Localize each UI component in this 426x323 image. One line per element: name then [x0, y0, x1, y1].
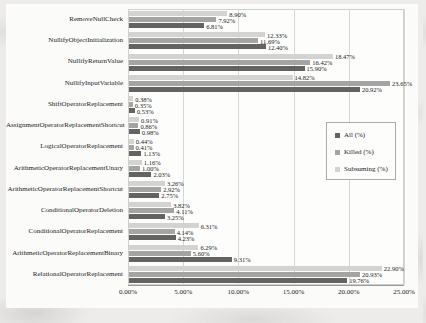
- bar-value-label: 6.81%: [206, 22, 223, 29]
- category-label: AssignmentOperatorReplacementShortcut: [6, 115, 123, 136]
- plot-gridline: [404, 9, 405, 285]
- bar-all: [129, 151, 141, 156]
- bar-subsuming: [129, 160, 142, 165]
- bar-killed: [129, 272, 360, 277]
- category-label: NullifyReturnValue: [6, 51, 123, 72]
- category-label: NullifyObjectInitialization: [6, 30, 123, 51]
- bar-value-label: 14.82%: [295, 74, 315, 81]
- x-axis-tick-label: 25.00%: [382, 288, 426, 296]
- x-axis-tick-label: 10.00%: [216, 288, 260, 296]
- x-axis-tick-label: 15.00%: [272, 288, 316, 296]
- bar-value-label: 12.40%: [268, 43, 288, 50]
- category-label: ConditionalOperatorReplacement: [6, 221, 123, 242]
- category-label: RelationalOperatorReplacement: [6, 264, 123, 285]
- legend-label: Subsuming (%): [344, 165, 388, 173]
- bar-value-label: 19.76%: [349, 277, 369, 284]
- category-label: ConditionalOperatorDeletion: [6, 200, 123, 221]
- bar-killed: [129, 166, 140, 171]
- legend-label: All (%): [344, 131, 365, 139]
- bar-value-label: 18.47%: [335, 53, 355, 60]
- bar-value-label: 22.90%: [384, 265, 404, 272]
- category-label: ArithmeticOperatorReplacementUnary: [6, 158, 123, 179]
- bar-subsuming: [129, 32, 265, 37]
- bar-all: [129, 278, 347, 283]
- bar-subsuming: [129, 75, 293, 80]
- legend-marker-icon: [335, 133, 340, 138]
- bar-all: [129, 66, 305, 71]
- x-axis-tick-label: 20.00%: [327, 288, 371, 296]
- plot-gridline: [238, 9, 239, 285]
- bar-value-label: 15.90%: [307, 65, 327, 72]
- bar-value-label: 0.98%: [142, 128, 159, 135]
- bar-subsuming: [129, 54, 333, 59]
- bar-all: [129, 214, 165, 219]
- bar-value-label: 4.23%: [178, 234, 195, 241]
- bar-subsuming: [129, 11, 227, 16]
- legend-marker-icon: [335, 167, 340, 172]
- bar-killed: [129, 187, 161, 192]
- category-label: LogicalOperatorReplacement: [6, 136, 123, 157]
- bar-subsuming: [129, 139, 134, 144]
- bar-subsuming: [129, 266, 382, 271]
- category-label: ShiftOperatorReplacement: [6, 94, 123, 115]
- bar-value-label: 23.65%: [392, 80, 412, 87]
- bar-value-label: 9.31%: [234, 256, 251, 263]
- bar-value-label: 20.92%: [362, 86, 382, 93]
- bar-killed: [129, 102, 133, 107]
- bar-killed: [129, 123, 138, 128]
- bar-all: [129, 87, 360, 92]
- bar-value-label: 1.13%: [143, 150, 160, 157]
- category-label: ArithmeticOperatorReplacementBinary: [6, 243, 123, 264]
- bar-all: [129, 23, 204, 28]
- x-axis-tick-label: 0.00%: [106, 288, 150, 296]
- bar-value-label: 3.25%: [167, 213, 184, 220]
- bar-all: [129, 172, 151, 177]
- x-axis-tick-label: 5.00%: [161, 288, 205, 296]
- plot-gridline: [183, 9, 184, 285]
- chart-legend: All (%)Killed (%)Subsuming (%): [326, 122, 396, 180]
- category-label: ArithmeticOperatorReplacementShortcut: [6, 179, 123, 200]
- legend-marker-icon: [335, 150, 340, 155]
- x-axis-line: [128, 285, 404, 286]
- bar-value-label: 2.03%: [153, 171, 170, 178]
- bar-killed: [129, 145, 134, 150]
- category-label: RemoveNullCheck: [6, 9, 123, 30]
- bar-all: [129, 257, 232, 262]
- bar-subsuming: [129, 245, 198, 250]
- bar-killed: [129, 81, 390, 86]
- bar-killed: [129, 229, 175, 234]
- bar-value-label: 2.75%: [161, 192, 178, 199]
- bar-subsuming: [129, 96, 133, 101]
- bar-killed: [129, 251, 191, 256]
- legend-label: Killed (%): [344, 148, 374, 156]
- bar-killed: [129, 38, 258, 43]
- bar-value-label: 0.53%: [137, 107, 154, 114]
- bar-all: [129, 108, 135, 113]
- bar-value-label: 5.60%: [193, 250, 210, 257]
- category-label: NullifyInputVariable: [6, 73, 123, 94]
- bar-subsuming: [129, 202, 171, 207]
- bar-subsuming: [129, 117, 139, 122]
- bar-subsuming: [129, 181, 165, 186]
- plot-gridline: [294, 9, 295, 285]
- bar-all: [129, 193, 159, 198]
- bar-all: [129, 235, 176, 240]
- bar-killed: [129, 60, 310, 65]
- bar-value-label: 6.31%: [201, 222, 218, 229]
- bar-all: [129, 129, 140, 134]
- mutation-operators-bar-chart: 0.00%5.00%10.00%15.00%20.00%25.00%Remove…: [6, 4, 418, 308]
- bar-killed: [129, 17, 216, 22]
- bar-all: [129, 44, 266, 49]
